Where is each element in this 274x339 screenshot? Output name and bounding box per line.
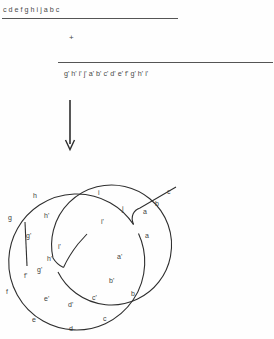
tail-label-b: b — [155, 200, 159, 207]
displaced-strand — [64, 234, 88, 268]
outer-label-e: e — [32, 316, 36, 323]
figure-canvas: c d e f g h i j a b c + g' h' i' j' a' b… — [0, 0, 274, 339]
tail-label-c: c — [167, 188, 171, 195]
displaced-label-i-prime: i' — [58, 243, 61, 250]
outer-strand-arc — [9, 194, 145, 330]
inner-strand-terminus — [25, 222, 27, 266]
inner-label-h-prime-top: h' — [44, 212, 49, 219]
displaced-label-g-prime: g' — [37, 266, 42, 273]
outer-label-d: d — [69, 325, 73, 332]
outer-label-f: f — [6, 288, 8, 295]
outer-label-a: a — [145, 232, 149, 239]
downward-arrow-icon — [66, 100, 75, 150]
outer-label-c: c — [103, 315, 107, 322]
inner-label-a-prime: a' — [117, 253, 122, 260]
tail-label-a: a — [143, 208, 147, 215]
outer-label-i: i — [98, 189, 100, 196]
inner-label-g-prime-left: g' — [26, 232, 31, 239]
outer-label-h: h — [33, 192, 37, 199]
outer-label-b: b — [131, 290, 135, 297]
displaced-label-h-prime: h' — [47, 255, 52, 262]
outer-label-g: g — [8, 214, 12, 221]
inner-label-b-prime: b' — [109, 277, 114, 284]
inner-label-d-prime: d' — [68, 301, 73, 308]
outer-label-j: j — [122, 205, 124, 212]
diagram-drawing — [0, 0, 274, 339]
inner-label-e-prime: e' — [44, 295, 49, 302]
inner-label-c-prime: c' — [92, 294, 97, 301]
inner-label-i-prime-top: i' — [101, 218, 104, 225]
inner-label-f-prime: f' — [24, 272, 27, 279]
